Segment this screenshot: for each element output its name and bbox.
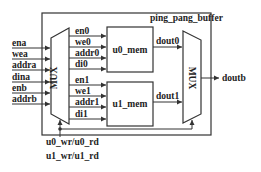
ping-pang-buffer-diagram: ping_pang_buffer ena wea addra dina enb …: [0, 0, 261, 172]
right-mux-label: MUX: [187, 67, 197, 90]
u1-mem-label: u1_mem: [113, 99, 148, 109]
input-label-addrb: addrb: [12, 94, 37, 104]
dout1-label: dout1: [156, 91, 179, 101]
signal-label-en1: en1: [75, 75, 90, 85]
input-label-ena: ena: [12, 38, 27, 48]
dout0-label: dout0: [156, 36, 179, 46]
input-label-dina: dina: [12, 72, 30, 82]
input-label-wea: wea: [12, 49, 28, 59]
input-label-addra: addra: [12, 60, 37, 70]
signal-label-di0: di0: [75, 59, 88, 69]
module-title: ping_pang_buffer: [150, 13, 224, 23]
select-junction-dot: [58, 127, 62, 131]
signal-label-addr0: addr0: [75, 48, 100, 58]
signal-label-we1: we1: [75, 86, 91, 96]
select-label-u0: u0_wr/u0_rd: [46, 137, 100, 147]
u0-mem-label: u0_mem: [113, 45, 148, 55]
select-label-u1: u1_wr/u1_rd: [46, 151, 100, 161]
input-label-enb: enb: [12, 83, 27, 93]
doutb-label: doutb: [222, 73, 246, 83]
signal-label-en0: en0: [75, 26, 90, 36]
left-mux-label: MUX: [49, 67, 59, 90]
signal-label-we0: we0: [75, 37, 91, 47]
signal-label-di1: di1: [75, 109, 88, 119]
signal-label-addr1: addr1: [75, 97, 100, 107]
